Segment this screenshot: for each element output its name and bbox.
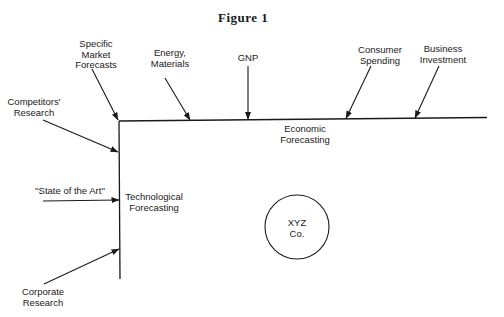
- label-economic-forecasting: Economic Forecasting: [270, 124, 340, 145]
- label-energy: Energy, Materials: [140, 48, 200, 69]
- arrow-competitors: [43, 120, 118, 152]
- label-business: Business Investment: [408, 44, 478, 65]
- figure-title: Figure 1: [218, 10, 268, 26]
- arrow-consumer: [346, 66, 371, 119]
- arrow-specific-market: [92, 69, 118, 120]
- arrow-energy: [165, 78, 190, 120]
- label-consumer: Consumer Spending: [345, 45, 415, 66]
- arrow-state-of-art: [43, 200, 119, 201]
- label-technological-forecasting: Technological Forecasting: [119, 192, 189, 213]
- label-corporate: Corporate Research: [13, 287, 73, 308]
- label-gnp: GNP: [228, 53, 268, 64]
- arrow-business: [415, 66, 439, 118]
- arrow-corporate: [44, 249, 119, 284]
- label-state-of-art: ''State of the Art'': [30, 186, 110, 197]
- label-specific-market: Specific Market Forecasts: [66, 39, 126, 71]
- label-company: XYZ Co.: [277, 218, 317, 239]
- diagram-canvas: Figure 1 Specific Market Forecasts Energ…: [0, 0, 504, 317]
- economic-axis-line: [119, 118, 487, 122]
- label-competitors: Competitors' Research: [2, 97, 66, 118]
